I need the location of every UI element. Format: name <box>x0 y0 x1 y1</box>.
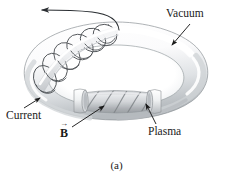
label-current: Current <box>6 110 41 122</box>
label-plasma: Plasma <box>148 126 181 138</box>
current-leader-line <box>24 98 40 108</box>
figure-caption: (a) <box>0 160 233 171</box>
b-symbol: B <box>60 126 68 140</box>
tokamak-figure: Vacuum Current Plasma → B (a) <box>0 0 233 185</box>
vector-arrow-icon: → <box>60 121 68 126</box>
torus-diagram-svg <box>0 0 233 185</box>
label-vacuum: Vacuum <box>166 8 204 20</box>
collar-left-inner <box>84 93 88 110</box>
collar-left <box>74 89 88 113</box>
label-b-field-vector: → B <box>60 127 68 139</box>
b-vector-wrapper: → B <box>60 127 68 139</box>
